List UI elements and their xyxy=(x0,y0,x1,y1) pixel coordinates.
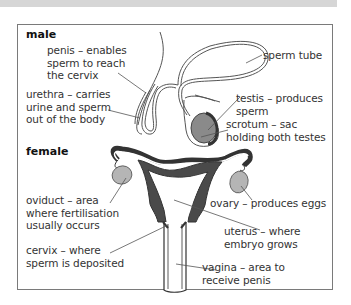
label-penis: penis – enables sperm to reach the cervi… xyxy=(47,44,127,82)
label-oviduct: oviduct – area where fertilisation usual… xyxy=(26,194,119,232)
label-uterus: uterus – where embryo grows xyxy=(224,225,300,250)
label-scrotum: scrotum – sac holding both testes xyxy=(226,118,326,143)
female-heading: female xyxy=(26,145,68,158)
label-urethra: urethra – carries urine and sperm out of… xyxy=(26,88,111,126)
ovary-right-shape xyxy=(227,169,250,195)
label-cervix: cervix – where sperm is deposited xyxy=(26,244,124,269)
label-testis: testis – produces sperm xyxy=(236,92,323,117)
label-vagina: vagina – area to receive penis xyxy=(202,261,285,286)
label-sperm-tube: sperm tube xyxy=(263,49,322,62)
ovary-left-shape xyxy=(110,163,135,187)
label-ovary: ovary – produces eggs xyxy=(210,197,326,210)
male-heading: male xyxy=(26,28,56,41)
